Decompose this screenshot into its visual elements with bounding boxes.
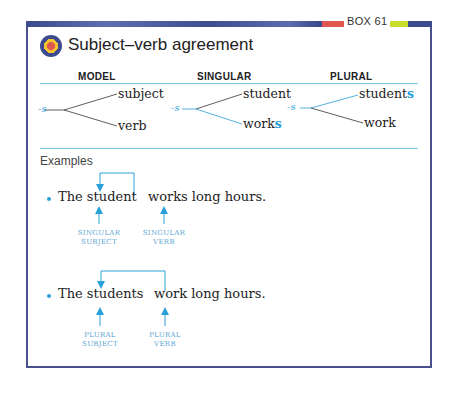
example-1-predicate: works long hours. — [148, 189, 266, 204]
label-line: SUBJECT — [74, 238, 124, 247]
example-1-verb-label: SINGULARVERB — [139, 229, 189, 247]
singular-bottom-suffix: s — [275, 116, 282, 131]
example-2-predicate: work long hours. — [154, 286, 266, 301]
model-bottom-word: verb — [118, 118, 146, 133]
label-line: SINGULAR — [139, 229, 189, 238]
plural-top-base: student — [359, 86, 407, 101]
example-2-verb-label: PLURALVERB — [140, 331, 190, 349]
plural-top-suffix: s — [407, 86, 414, 101]
label-line: SINGULAR — [74, 229, 124, 238]
model-top-word: subject — [118, 86, 164, 101]
label-line: VERB — [139, 238, 189, 247]
bullet — [47, 294, 51, 298]
plural-suffix: -s — [287, 101, 296, 112]
label-line: PLURAL — [75, 331, 125, 340]
singular-suffix: -s — [171, 102, 180, 113]
example-1-subject: The student — [58, 189, 137, 204]
label-line: PLURAL — [140, 331, 190, 340]
example-1-subject-label: SINGULARSUBJECT — [74, 229, 124, 247]
singular-top-word: student — [243, 86, 291, 101]
example-2-subject-label: PLURALSUBJECT — [75, 331, 125, 349]
plural-bottom-word: work — [364, 115, 396, 130]
singular-bottom-base: work — [243, 116, 275, 131]
label-line: VERB — [140, 340, 190, 349]
singular-bottom-word: works — [243, 116, 282, 131]
bullet — [47, 197, 51, 201]
examples-heading: Examples — [40, 154, 93, 168]
example-2-subject: The students — [58, 286, 143, 301]
model-suffix: -s — [38, 103, 47, 114]
label-line: SUBJECT — [75, 340, 125, 349]
plural-top-word: students — [359, 86, 414, 101]
